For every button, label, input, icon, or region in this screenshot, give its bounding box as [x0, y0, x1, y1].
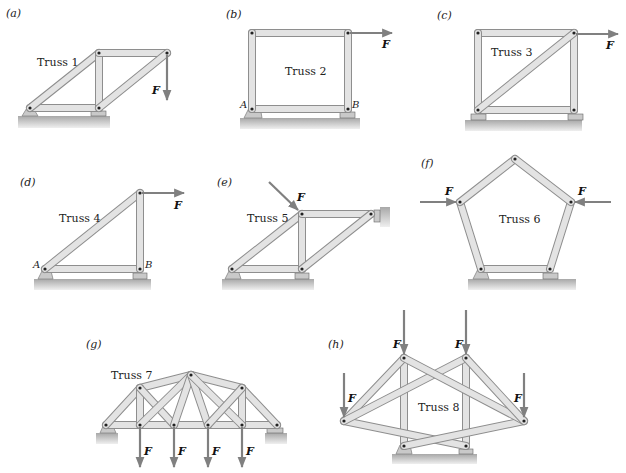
ground — [18, 116, 110, 128]
truss-figure: (a) F Truss 1 (b) — [0, 0, 626, 473]
force-label: F — [173, 199, 183, 212]
panel-label: (a) — [6, 7, 21, 20]
truss-title: Truss 1 — [37, 56, 78, 69]
point-a-label: A — [239, 99, 247, 110]
panel-label: (h) — [328, 338, 344, 351]
truss-diagrams: (a) F Truss 1 (b) — [0, 0, 626, 473]
force-label: F — [296, 191, 306, 204]
truss-title: Truss 6 — [499, 213, 540, 226]
roller-support — [133, 273, 147, 279]
force-label-1: F — [143, 445, 153, 458]
force-label-2: F — [177, 445, 187, 458]
ground — [392, 454, 477, 464]
force-label-right: F — [577, 185, 587, 198]
truss-members — [106, 375, 277, 425]
ground-right — [265, 433, 287, 444]
panel-b: (b) F Truss 2 A B — [226, 8, 392, 129]
panel-e: (e) F Truss 5 — [217, 176, 390, 290]
force-label: F — [381, 38, 391, 51]
roller-support-left — [471, 114, 486, 120]
force-arrows — [140, 427, 242, 467]
panel-c: (c) F Truss 3 — [437, 9, 618, 131]
panel-label: (f) — [421, 157, 434, 170]
panel-label: (d) — [20, 176, 36, 189]
truss-title: Truss 4 — [59, 212, 100, 225]
force-label: F — [605, 39, 615, 52]
force-label-4: F — [513, 392, 523, 405]
point-a-label: A — [32, 259, 40, 270]
panel-label: (g) — [86, 338, 102, 351]
truss-title: Truss 8 — [418, 401, 459, 414]
wall — [380, 207, 390, 227]
ground — [468, 279, 576, 290]
panel-h: (h) F F F F — [328, 310, 526, 464]
roller-support — [295, 273, 309, 279]
truss-title: Truss 3 — [491, 46, 532, 59]
point-b-label: B — [351, 99, 359, 110]
force-arrow-diagonal — [269, 182, 298, 210]
truss-title: Truss 2 — [285, 65, 326, 78]
truss-title: Truss 7 — [111, 369, 152, 382]
ground-left — [96, 433, 118, 444]
wall-roller-support — [374, 210, 380, 222]
panel-label: (c) — [437, 9, 452, 22]
panel-d: (d) F Truss 4 A B — [20, 176, 184, 290]
force-label-2: F — [454, 338, 464, 351]
roller-support-right — [568, 114, 583, 120]
ground — [34, 279, 151, 290]
force-label-1: F — [392, 338, 402, 351]
force-label: F — [151, 84, 161, 97]
panel-f: (f) F F Truss 6 — [420, 157, 611, 290]
panel-g: (g) — [86, 338, 287, 467]
ground — [222, 279, 314, 290]
truss-title: Truss 5 — [247, 212, 288, 225]
force-label-3: F — [211, 445, 221, 458]
force-label-3: F — [347, 392, 357, 405]
force-label-4: F — [245, 445, 255, 458]
truss-members — [478, 33, 574, 110]
panel-label: (e) — [217, 176, 232, 189]
point-b-label: B — [144, 259, 152, 270]
panel-label: (b) — [226, 8, 242, 21]
truss-members — [45, 193, 140, 269]
roller-support — [543, 273, 558, 279]
ground — [240, 118, 360, 129]
force-label-left: F — [444, 185, 454, 198]
panel-a: (a) F Truss 1 — [6, 7, 169, 128]
ground — [465, 120, 582, 131]
